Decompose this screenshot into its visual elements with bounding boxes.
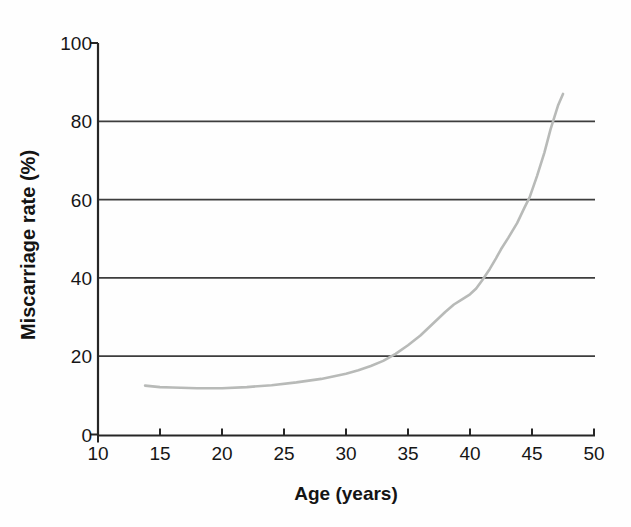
x-tick-label-45: 45 [521,444,542,463]
miscarriage-rate-chart: 020406080100 101520253035404550 Age (yea… [0,0,631,527]
y-tick-label-40: 40 [46,268,92,287]
x-tick-label-30: 30 [335,444,356,463]
x-tick-label-20: 20 [211,444,232,463]
y-tick-label-0: 0 [46,425,92,444]
x-tick-label-35: 35 [397,444,418,463]
y-tick-label-100: 100 [46,34,92,53]
data-curve [145,94,563,388]
x-tick-label-15: 15 [149,444,170,463]
y-tick-label-80: 80 [46,112,92,131]
x-tick-label-25: 25 [273,444,294,463]
y-axis-title: Miscarriage rate (%) [17,150,40,340]
x-tick-label-40: 40 [459,444,480,463]
x-tick-label-50: 50 [583,444,604,463]
y-tick-label-60: 60 [46,190,92,209]
y-tick-label-20: 20 [46,347,92,366]
x-axis-title: Age (years) [294,483,398,505]
x-tick-label-10: 10 [87,444,108,463]
